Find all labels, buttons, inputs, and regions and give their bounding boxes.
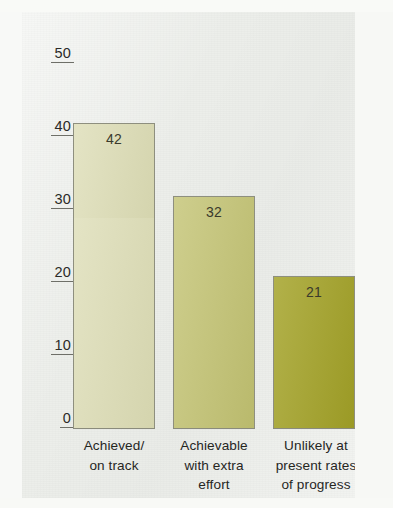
category-label-achieved-on-track: Achieved/ on track — [62, 436, 166, 475]
bar-achieved-on-track-body[interactable] — [73, 218, 155, 429]
plot-area: 50 40 30 20 10 0 42 32 — [22, 12, 355, 498]
y-axis-tick-40: 40 — [28, 118, 74, 136]
y-axis-tick-0: 0 — [28, 410, 74, 428]
bar-value-label: 21 — [274, 284, 354, 300]
y-axis-tick-30: 30 — [28, 191, 74, 209]
page-bottom-margin — [0, 498, 393, 508]
y-axis-tick-label: 30 — [51, 191, 74, 209]
chart-page: 50 40 30 20 10 0 42 32 — [0, 0, 393, 508]
bar-baseline-2 — [173, 428, 255, 429]
category-label-line: Achieved/ — [62, 436, 166, 456]
y-axis-tick-label: 10 — [51, 337, 74, 355]
category-label-achievable-with-extra-effort: Achievable with extra effort — [162, 436, 266, 495]
category-label-line: effort — [162, 475, 266, 495]
y-axis-tick-label: 40 — [51, 118, 74, 136]
y-axis-tick-label: 50 — [51, 45, 74, 63]
category-label-line: Achievable — [162, 436, 266, 456]
bar-baseline-1 — [73, 428, 155, 429]
bar-value-label: 32 — [174, 204, 254, 220]
bar-baseline-3 — [273, 428, 355, 429]
y-axis-tick-50: 50 — [28, 45, 74, 63]
chart-panel: 50 40 30 20 10 0 42 32 — [22, 12, 355, 498]
y-axis-tick-label: 20 — [51, 264, 74, 282]
bar-unlikely-at-present-rates[interactable]: 21 — [273, 276, 355, 429]
page-left-margin — [0, 0, 22, 508]
category-label-line: on track — [62, 456, 166, 476]
y-axis-tick-label: 0 — [60, 410, 74, 428]
y-axis-tick-10: 10 — [28, 337, 74, 355]
y-axis-tick-20: 20 — [28, 264, 74, 282]
category-label-line: with extra — [162, 456, 266, 476]
bar-achievable-with-extra-effort[interactable]: 32 — [173, 196, 255, 429]
bar-achieved-on-track[interactable]: 42 — [73, 123, 155, 218]
page-top-margin — [0, 0, 393, 12]
page-right-margin — [355, 0, 393, 508]
bar-value-label: 42 — [74, 131, 154, 147]
